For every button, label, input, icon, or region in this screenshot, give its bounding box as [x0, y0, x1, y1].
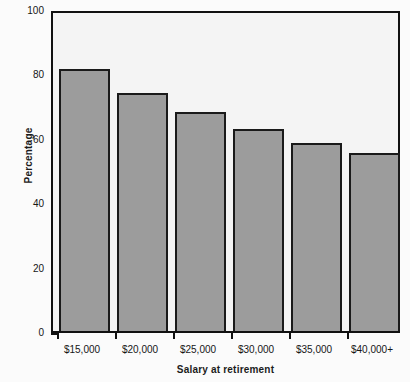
x-tick	[115, 333, 117, 339]
x-tick	[231, 333, 233, 339]
x-tick	[57, 333, 59, 339]
x-tick	[347, 333, 349, 339]
y-tick-label: 0	[4, 328, 44, 338]
x-axis-title: Salary at retirement	[51, 364, 400, 375]
bar-2	[175, 112, 226, 331]
y-tick-label: 20	[4, 264, 44, 274]
bar-1	[117, 93, 168, 332]
bar-chart-figure: Percentage 100 80 60 40 20 0 $15,000 $20…	[0, 0, 410, 382]
y-tick-label: 80	[4, 70, 44, 80]
y-tick-label: 60	[4, 135, 44, 145]
bar-3	[233, 129, 284, 331]
y-tick-label: 40	[4, 199, 44, 209]
y-tick-label: 100	[4, 6, 44, 16]
plot-area	[51, 11, 400, 333]
bar-4	[291, 143, 342, 331]
bar-5	[349, 153, 400, 331]
x-tick	[289, 333, 291, 339]
y-axis-title: Percentage	[23, 96, 34, 216]
bars-layer	[53, 13, 398, 331]
bar-0	[59, 69, 110, 331]
x-tick-label: $40,000+	[337, 344, 407, 355]
x-tick	[173, 333, 175, 339]
